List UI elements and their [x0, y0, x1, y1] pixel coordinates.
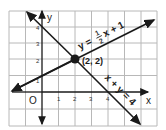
x-tick-3: 3 — [89, 96, 93, 102]
grid — [9, 11, 157, 126]
x-tick-4: 4 — [106, 96, 110, 102]
x-tick-2: 2 — [73, 96, 77, 102]
intersection-label: (2, 2) — [82, 56, 103, 66]
x-axis-label: x — [146, 95, 151, 106]
intersection-point — [71, 55, 80, 64]
equation-label-half-x-plus-1: y = 1 2 x + 1 — [75, 17, 128, 54]
y-tick-3: 3 — [36, 41, 40, 47]
coordinate-graph: y x O 1 2 3 4 1 2 3 4 (2, 2) y = 1 2 x +… — [0, 0, 166, 130]
svg-text:2: 2 — [98, 37, 105, 45]
origin-label: O — [29, 95, 37, 106]
y-axis-label: y — [47, 12, 52, 23]
x-tick-1: 1 — [57, 96, 61, 102]
svg-text:1: 1 — [94, 29, 101, 37]
y-tick-4: 4 — [36, 25, 40, 31]
